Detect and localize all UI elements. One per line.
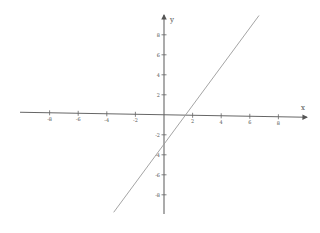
x-tick-label: 4 [220,119,223,125]
x-tick-label: -2 [133,117,138,123]
y-tick-label: 6 [157,52,160,58]
y-tick-label: 4 [157,72,160,78]
x-tick-label: -4 [104,117,109,123]
x-tick-label: -6 [76,116,81,122]
y-tick-label: -6 [155,172,160,178]
x-tick-label: 8 [277,120,280,126]
y-tick-label: -8 [155,192,160,198]
x-tick-label: 2 [191,118,194,124]
y-tick-label: 2 [157,92,160,98]
y-axis-label: y [169,16,174,24]
x-tick-label: 6 [248,119,251,125]
x-axis-label: x [301,104,305,112]
x-tick-label: -8 [47,116,52,122]
coordinate-plane: x y -8-6-4-22468 8642-2-4-6-8 [0,0,320,233]
y-tick-label: 8 [157,32,160,38]
y-tick-label: -2 [155,132,160,138]
